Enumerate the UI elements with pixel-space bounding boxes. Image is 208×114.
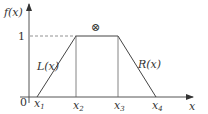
y-tick-one: 1 xyxy=(18,30,25,43)
x-axis-label: x xyxy=(189,100,196,113)
x-tick-2: x2 xyxy=(73,99,84,113)
top-symbol: ⊗ xyxy=(91,21,100,34)
x-tick-3: x3 xyxy=(114,99,125,113)
trapezoid-diagram: f(x) 1 ⊗ L(x) R(x) 0 x x1 x2 x3 x4 xyxy=(0,0,208,114)
right-curve-label: R(x) xyxy=(137,58,161,71)
x-tick-1: x1 xyxy=(34,97,45,111)
left-curve-label: L(x) xyxy=(36,60,59,73)
x-tick-4: x4 xyxy=(152,99,163,113)
origin-label: 0 xyxy=(20,96,27,109)
y-axis-label: f(x) xyxy=(3,6,23,19)
